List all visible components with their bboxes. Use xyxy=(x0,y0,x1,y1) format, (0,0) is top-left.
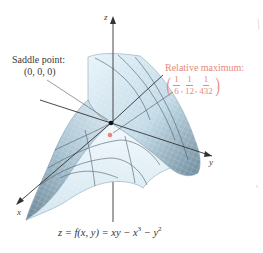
relative-maximum-coords: ( 1 6 , 1 12 , 1 432 ) xyxy=(165,74,221,96)
x-axis-label: x xyxy=(17,208,21,217)
saddle-point-title: Saddle point: xyxy=(12,55,65,65)
relative-maximum-marker xyxy=(108,133,113,138)
saddle-point-marker xyxy=(109,121,114,126)
surface-equation: z = f(x, y) = xy − x3 − y2 xyxy=(58,226,162,238)
open-paren: ( xyxy=(166,74,170,96)
max-z-fraction: 1 432 xyxy=(199,75,213,96)
z-axis-label: z xyxy=(104,13,108,22)
z-axis-arrow-icon xyxy=(110,16,116,24)
surface-diagram: z y x Saddle point: (0, 0, 0) Relative m… xyxy=(0,0,263,253)
saddle-point-coords: (0, 0, 0) xyxy=(24,67,56,77)
y-axis-label: y xyxy=(209,158,213,167)
max-x-fraction: 1 6 xyxy=(173,75,180,96)
relative-maximum-title: Relative maximum: xyxy=(165,63,244,73)
close-paren: ) xyxy=(215,74,219,96)
surface-plot xyxy=(0,0,263,253)
x-axis-arrow-icon xyxy=(16,197,24,205)
max-y-fraction: 1 12 xyxy=(185,75,194,96)
